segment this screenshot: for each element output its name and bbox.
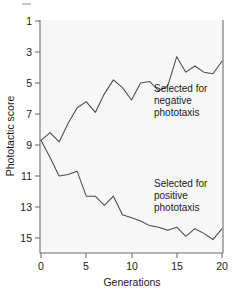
y-tick-label: 7 [26, 108, 32, 120]
top-edge-artifact [22, 3, 31, 5]
x-axis-ticks [41, 253, 222, 258]
annotation-positive-line2: positive [154, 190, 188, 201]
annotation-positive-line1: Selected for [154, 178, 208, 189]
annotation-negative-line1: Selected for [154, 83, 208, 94]
y-tick-label: 11 [21, 170, 32, 182]
y-axis-tick-labels: 1 3 5 7 9 11 13 15 [20, 15, 32, 244]
x-axis-tick-labels: 0 5 10 15 20 [38, 260, 228, 272]
chart-figure: 1 3 5 7 9 11 13 15 0 5 10 15 20 Generati… [0, 0, 238, 293]
y-tick-label: 9 [26, 139, 32, 151]
y-axis-ticks [35, 21, 40, 238]
y-tick-label: 1 [26, 15, 32, 27]
annotation-negative-line2: negative [154, 95, 192, 106]
x-tick-label: 0 [38, 260, 44, 272]
annotation-negative-line3: phototaxis [154, 107, 200, 118]
x-axis-title: Generations [103, 276, 160, 288]
x-tick-label: 10 [126, 260, 138, 272]
x-tick-label: 15 [171, 260, 183, 272]
y-tick-label: 15 [20, 232, 32, 244]
y-tick-label: 5 [26, 77, 32, 89]
y-tick-label: 13 [20, 201, 32, 213]
y-axis-title: Phototactic score [4, 96, 16, 177]
x-tick-label: 20 [216, 260, 228, 272]
annotation-positive-line3: phototaxis [154, 202, 200, 213]
phototactic-score-line-chart: 1 3 5 7 9 11 13 15 0 5 10 15 20 Generati… [0, 0, 238, 293]
y-tick-label: 3 [26, 46, 32, 58]
x-tick-label: 5 [83, 260, 89, 272]
